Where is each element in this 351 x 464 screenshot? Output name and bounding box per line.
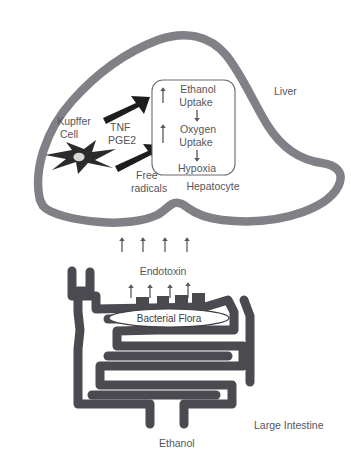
- figure-root: Liver Kupffer Cell TNF PGE2 Free radical…: [0, 0, 351, 464]
- large-intestine-shape: [72, 271, 250, 424]
- tnf-label: TNF: [110, 121, 130, 133]
- hepatocyte-label: Hepatocyte: [186, 180, 239, 192]
- bacterial-flora-label: Bacterial Flora: [137, 313, 202, 324]
- box-step-3-line1: Hypoxia: [178, 162, 216, 174]
- liver-gut-diagram: Liver Kupffer Cell TNF PGE2 Free radical…: [0, 0, 351, 464]
- free-radicals-label-line2: radicals: [131, 182, 167, 194]
- box-step-1-line1: Ethanol: [180, 83, 216, 95]
- liver-label: Liver: [274, 85, 297, 97]
- ethanol-label: Ethanol: [159, 437, 195, 449]
- endotoxin-label: Endotoxin: [140, 265, 187, 277]
- box-step-2-line1: Oxygen: [180, 123, 216, 135]
- kupffer-nucleus-icon: [73, 153, 84, 161]
- pge2-label: PGE2: [108, 134, 136, 146]
- kupffer-cell-icon: [45, 140, 116, 174]
- box-step-2-line2: Uptake: [179, 136, 212, 148]
- box-step-1-line2: Uptake: [179, 96, 212, 108]
- large-intestine-label: Large Intestine: [254, 419, 324, 431]
- kupffer-cell-label-line1: Kupffer: [57, 115, 91, 127]
- kupffer-cell-label-line2: Cell: [60, 128, 78, 140]
